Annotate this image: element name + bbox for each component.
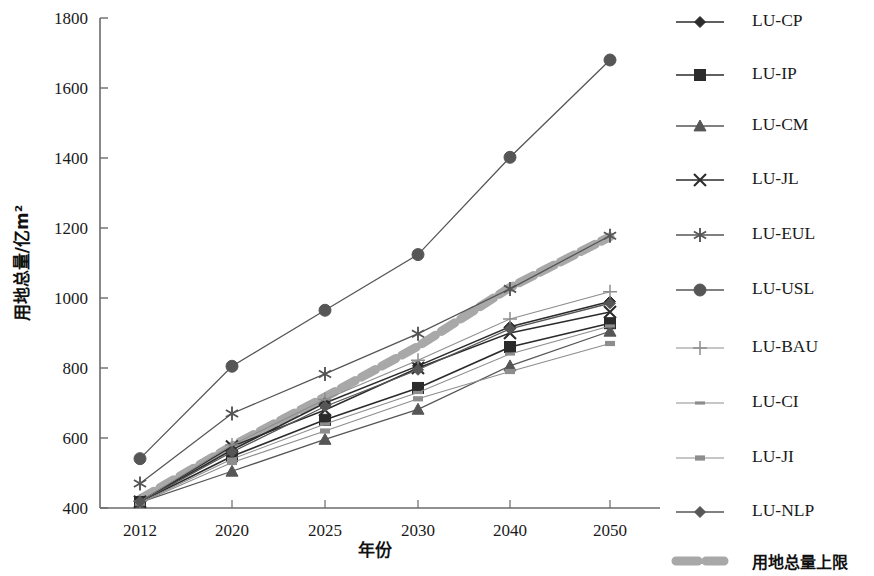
data-point-asterisk [134, 477, 146, 491]
data-point-triangle [226, 465, 238, 476]
dash-marker-icon [695, 401, 705, 404]
series-line [140, 292, 610, 502]
circle-marker-icon [504, 151, 516, 163]
legend-item-lu-jl[interactable]: LU-JL [676, 168, 799, 188]
circle-marker-icon [134, 453, 146, 465]
data-point-bar [413, 396, 423, 401]
legend-item-label: LU-NLP [752, 500, 814, 520]
data-point-dash [605, 324, 615, 327]
data-point-diamond [695, 17, 706, 28]
data-point-square [695, 70, 706, 81]
series-line [140, 323, 610, 502]
data-point-circle [694, 284, 706, 296]
x-axis-title: 年份 [358, 540, 393, 560]
legend-item-lu-cm[interactable]: LU-CM [676, 114, 809, 134]
data-point-circle [412, 249, 424, 261]
legend-item-lu-cp[interactable]: LU-CP [676, 10, 803, 30]
dash-marker-icon [605, 324, 615, 327]
legend-item-label: LU-CP [752, 10, 803, 30]
series-line [140, 236, 610, 484]
y-tick-label: 800 [63, 359, 89, 378]
triangle-marker-icon [319, 433, 331, 444]
data-point-plus [693, 341, 707, 355]
legend-item-label: LU-CM [752, 114, 809, 134]
bar-marker-icon [505, 369, 515, 374]
data-point-asterisk [226, 407, 238, 421]
y-tick-label: 1800 [54, 9, 88, 28]
legend-item-label: 用地总量上限 [752, 553, 849, 572]
data-point-diamond2 [695, 507, 706, 518]
legend-item-label: LU-CI [752, 391, 799, 411]
circle-marker-icon [319, 304, 331, 316]
line-chart: 4006008001000120014001600180020122020202… [0, 0, 874, 576]
y-tick-label: 400 [63, 499, 89, 518]
legend-item-lu-ip[interactable]: LU-IP [676, 63, 797, 83]
legend-item-label: LU-USL [752, 278, 814, 298]
series-line [140, 331, 610, 502]
plus-marker-icon [693, 341, 707, 355]
dash-marker-icon [505, 352, 515, 355]
triangle-marker-icon [412, 403, 424, 414]
legend-item-lu-nlp[interactable]: LU-NLP [676, 500, 814, 520]
data-point-bar [227, 460, 237, 465]
legend-item-label: LU-JL [752, 168, 799, 188]
square-marker-icon [505, 342, 516, 353]
x-tick-label: 2012 [123, 521, 157, 540]
x-tick-label: 2040 [493, 521, 527, 540]
axes [100, 18, 660, 508]
legend-item-label: LU-BAU [752, 336, 818, 356]
chart-legend: LU-CPLU-IPLU-CMLU-JLLU-EULLU-USLLU-BAULU… [676, 10, 849, 571]
data-point-dash [695, 401, 705, 404]
x-tick-label: 2050 [593, 521, 627, 540]
asterisk-marker-icon [134, 477, 146, 491]
asterisk-marker-icon [319, 367, 331, 381]
data-point-bar [505, 369, 515, 374]
diamond-marker-icon [695, 17, 706, 28]
circle-marker-icon [604, 54, 616, 66]
y-tick-label: 1000 [54, 289, 88, 308]
data-point-bar [695, 455, 705, 460]
legend-item-lu-eul[interactable]: LU-EUL [676, 223, 815, 243]
circle-marker-icon [226, 360, 238, 372]
plus-marker-icon [603, 285, 617, 299]
square-marker-icon [695, 70, 706, 81]
series-line [140, 60, 610, 459]
x-tick-label: 2020 [215, 521, 249, 540]
legend-item-label: LU-EUL [752, 223, 815, 243]
legend-item-lu-ji[interactable]: LU-JI [676, 446, 794, 466]
data-point-circle [604, 54, 616, 66]
data-point-square [505, 342, 516, 353]
legend-item-label: LU-IP [752, 63, 797, 83]
data-point-circle [226, 360, 238, 372]
data-point-bar [320, 428, 330, 433]
data-point-circle [134, 453, 146, 465]
y-tick-label: 1200 [54, 219, 88, 238]
triangle-marker-icon [226, 465, 238, 476]
data-point-asterisk [319, 367, 331, 381]
chart-figure: 4006008001000120014001600180020122020202… [0, 0, 874, 576]
data-point-triangle [412, 403, 424, 414]
series-lu-cp [135, 296, 616, 507]
data-point-triangle [319, 433, 331, 444]
data-point-dash [505, 352, 515, 355]
x-axis-ticks: 201220202025203020402050 [123, 500, 627, 540]
data-point-circle [319, 304, 331, 316]
legend-item-lu-bau[interactable]: LU-BAU [676, 336, 818, 356]
circle-marker-icon [412, 249, 424, 261]
bar-marker-icon [227, 460, 237, 465]
y-tick-label: 600 [63, 429, 89, 448]
data-point-plus [603, 285, 617, 299]
y-axis-title: 用地总量/亿m² [12, 205, 32, 321]
legend-item-用地总量上限[interactable]: 用地总量上限 [676, 553, 849, 572]
data-point-dash [413, 391, 423, 394]
legend-item-lu-usl[interactable]: LU-USL [676, 278, 814, 298]
asterisk-marker-icon [226, 407, 238, 421]
dash-marker-icon [320, 422, 330, 425]
bar-marker-icon [605, 341, 615, 346]
data-point-bar [605, 341, 615, 346]
series-lu-ci [135, 324, 615, 504]
y-tick-label: 1400 [54, 149, 88, 168]
legend-item-lu-ci[interactable]: LU-CI [676, 391, 799, 411]
bar-marker-icon [320, 428, 330, 433]
x-tick-label: 2025 [308, 521, 342, 540]
